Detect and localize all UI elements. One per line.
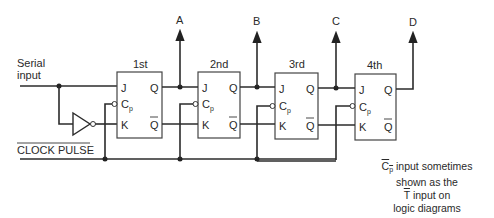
ff2-qbar-pin: Q [229, 119, 238, 131]
ff3-qbar-pin: Q [306, 120, 315, 132]
output-d-tap [396, 37, 413, 89]
ff2-q-pin: Q [229, 82, 238, 94]
serial-input-label: Serial [17, 57, 45, 69]
output-a-tap [178, 35, 183, 90]
note-line-3: T input on [360, 189, 494, 202]
output-a-label: A [176, 14, 184, 26]
ff1-title: 1st [133, 58, 148, 70]
ff3-q-pin: Q [306, 83, 315, 95]
output-d-label: D [409, 16, 417, 28]
ff4-k-pin: K [359, 121, 367, 133]
ff1-qbar-pin: Q [150, 119, 159, 131]
ff1-j-pin: J [121, 82, 127, 94]
ff2-title: 2nd [210, 58, 228, 70]
note-line-4: logic diagrams [360, 202, 494, 215]
ff4-qbar-pin: Q [384, 121, 393, 133]
ff2-j-pin: J [202, 82, 208, 94]
note-line-2: shown as the [360, 176, 494, 189]
output-c-tap [334, 37, 339, 91]
ff3-title: 3rd [289, 58, 305, 70]
cp-note-annotation: Cp input sometimes shown as the T input … [360, 160, 494, 215]
ff1-q-pin: Q [150, 82, 159, 94]
clock-pulse-label: CLOCK PULSE [17, 144, 94, 156]
output-b-label: B [253, 15, 260, 27]
serial-input-wire [20, 84, 117, 125]
shift-register-diagram: Serial input CLOCK PULSE [0, 0, 494, 218]
ff2-k-pin: K [202, 119, 210, 131]
output-c-label: C [332, 15, 340, 27]
note-line-1: Cp input sometimes [360, 160, 494, 176]
ff4-j-pin: J [359, 84, 365, 96]
ff3-k-pin: K [279, 120, 287, 132]
output-b-tap [255, 37, 260, 90]
ff4-q-pin: Q [384, 84, 393, 96]
ff4-title: 4th [367, 59, 382, 71]
ff1-k-pin: K [121, 119, 129, 131]
cp-overline-symbol: Cp [382, 160, 394, 172]
inverter-gate-icon [73, 113, 117, 135]
ff3-j-pin: J [279, 83, 285, 95]
serial-input-label-2: input [17, 69, 41, 81]
